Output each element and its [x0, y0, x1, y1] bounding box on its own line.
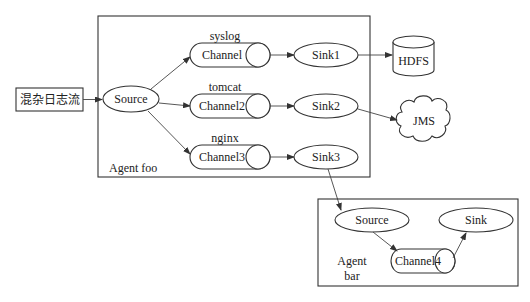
agent-bar-label-line2: bar [344, 269, 359, 283]
channel2-type-label: tomcat [209, 80, 242, 94]
jms-label: JMS [413, 114, 435, 128]
channel4-cylinder: Channel4 [391, 249, 455, 273]
sink1-node: Sink1 [294, 43, 358, 67]
channel1-cylinder: Channel [190, 43, 270, 67]
source-node: Source [103, 86, 159, 112]
source-label: Source [114, 92, 147, 106]
edge-agentbar-source-channel4 [373, 232, 397, 251]
sink2-node: Sink2 [294, 94, 358, 118]
channel3-label: Channel3 [199, 150, 245, 164]
agentbar-source-node: Source [335, 208, 409, 232]
sink3-node: Sink3 [294, 145, 358, 169]
hdfs-database-icon: HDFS [393, 36, 434, 76]
edge-sink3-agentbar-source [328, 169, 341, 210]
channel1-type-label: syslog [210, 29, 241, 43]
sink2-label: Sink2 [312, 99, 340, 113]
sink3-label: Sink3 [312, 150, 340, 164]
flume-diagram: Agent foo 混杂日志流 Source syslog tomcat ngi… [0, 0, 530, 302]
channel3-type-label: nginx [211, 131, 238, 145]
agentbar-sink-node: Sink [439, 208, 513, 232]
channel2-label: Channel2 [199, 99, 245, 113]
channel1-label: Channel [202, 48, 243, 62]
agentbar-sink-label: Sink [465, 213, 487, 227]
sink1-label: Sink1 [312, 48, 340, 62]
agent-bar-label-line1: Agent [337, 254, 367, 268]
input-log-stream-label: 混杂日志流 [20, 93, 80, 107]
hdfs-label: HDFS [398, 54, 429, 68]
edge-sink2-jms [358, 109, 397, 120]
input-log-stream: 混杂日志流 [16, 88, 83, 111]
edge-channel4-agentbar-sink [453, 233, 466, 258]
edge-source-channel1 [151, 57, 190, 89]
agent-foo-label: Agent foo [109, 161, 157, 175]
channel4-label: Channel4 [395, 254, 441, 268]
edge-source-channel3 [148, 111, 190, 154]
channel3-cylinder: Channel3 [190, 145, 270, 169]
channel2-cylinder: Channel2 [190, 94, 270, 118]
jms-cloud-icon: JMS [396, 96, 450, 141]
edge-source-channel2 [159, 103, 190, 106]
agentbar-source-label: Source [355, 213, 388, 227]
